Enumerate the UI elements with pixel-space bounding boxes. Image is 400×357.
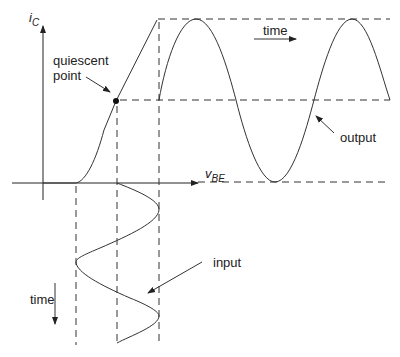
input-label: input xyxy=(213,255,242,270)
input-waveform xyxy=(76,183,159,343)
time-label-top: time xyxy=(263,23,288,38)
dashed-guides xyxy=(76,19,390,345)
time-label-left: time xyxy=(30,292,55,307)
quiescent-arrow xyxy=(86,77,110,92)
quiescent-point xyxy=(113,98,119,104)
transfer-diagram: iC vBE quiescent point time output input… xyxy=(0,0,400,357)
output-label: output xyxy=(340,130,377,145)
y-axis-label: iC xyxy=(29,10,40,28)
transfer-curve xyxy=(43,20,157,183)
quiescent-label-line1: quiescent xyxy=(53,53,109,68)
quiescent-label-line2: point xyxy=(53,68,82,83)
x-axis-label: vBE xyxy=(205,166,225,184)
input-arrow xyxy=(148,262,202,293)
output-arrow xyxy=(316,116,334,133)
